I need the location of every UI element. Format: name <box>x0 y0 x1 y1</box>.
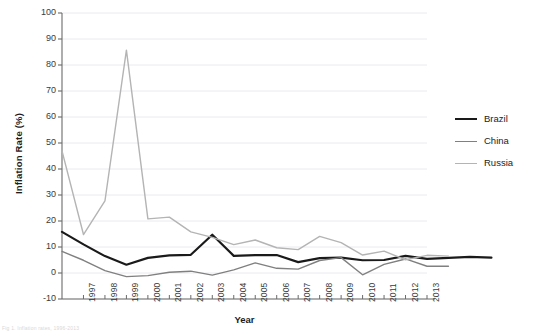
x-tick-label: 2012 <box>410 283 420 302</box>
x-tick-label: 2005 <box>259 283 269 302</box>
x-tick-label: 2010 <box>367 283 377 302</box>
legend-item-russia: Russia <box>455 152 545 174</box>
x-tick-label: 2003 <box>216 283 226 302</box>
chart-legend: BrazilChinaRussia <box>455 108 545 174</box>
x-tick-label: 2007 <box>302 283 312 302</box>
legend-item-china: China <box>455 130 545 152</box>
figure-caption: Fig 1. Inflation rates, 1996-2013 <box>2 325 252 331</box>
x-tick-label: 2000 <box>152 283 162 302</box>
x-tick-label: 2001 <box>173 283 183 302</box>
x-tick-label: 2009 <box>345 283 355 302</box>
x-tick-label: 2004 <box>238 283 248 302</box>
legend-swatch-russia <box>455 163 477 164</box>
x-tick-label: 2002 <box>195 283 205 302</box>
x-tick-label: 1999 <box>130 283 140 302</box>
x-tick-label: 1998 <box>109 283 119 302</box>
legend-label: Russia <box>484 158 513 168</box>
y-axis-title: Inflation Rate (%) <box>13 84 24 224</box>
legend-label: China <box>484 136 509 146</box>
x-tick-label: 1997 <box>87 283 97 302</box>
legend-label: Brazil <box>484 114 508 124</box>
x-tick-label: 2006 <box>281 283 291 302</box>
x-tick-label: 2008 <box>324 283 334 302</box>
x-tick-label: 2013 <box>431 283 441 302</box>
x-axis-title: Year <box>62 314 427 325</box>
legend-swatch-china <box>455 141 477 142</box>
legend-item-brazil: Brazil <box>455 108 545 130</box>
x-tick-label: 2011 <box>388 283 398 302</box>
legend-swatch-brazil <box>455 118 477 120</box>
inflation-rate-line-chart: 1009080706050403020100-10 19971998199920… <box>0 0 548 335</box>
